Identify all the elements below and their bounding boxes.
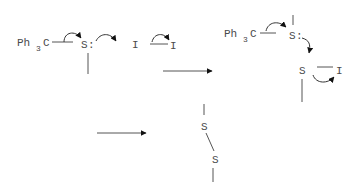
sulfur-label: S — [81, 39, 88, 51]
iodine-label: I — [336, 65, 343, 77]
intermediate-sulfonium: Ph 3 C S : S I — [224, 15, 343, 102]
sulfur-bottom-label: S — [212, 154, 219, 166]
sulfur-bottom-label: S — [299, 65, 306, 77]
lone-pair: : — [296, 30, 303, 42]
curly-arrow-icon — [266, 23, 286, 31]
ph-label: Ph — [224, 28, 237, 40]
carbon-label: C — [43, 37, 50, 49]
curly-arrow-icon — [152, 35, 169, 42]
sulfur-top-label: S — [289, 30, 296, 42]
reaction-mechanism-diagram: Ph 3 C S : I I Ph 3 C S : S I — [0, 0, 361, 196]
iodine-left-label: I — [132, 39, 139, 51]
iodine-right-label: I — [170, 40, 177, 52]
reactant-trityl-thiol: Ph 3 C S : — [17, 33, 116, 74]
sulfur-top-label: S — [201, 121, 208, 133]
product-disulfide: S S — [201, 104, 219, 182]
curly-arrow-icon — [96, 35, 116, 41]
s-s-bond — [206, 133, 214, 151]
carbon-label: C — [250, 28, 257, 40]
curly-arrow-icon — [313, 75, 334, 82]
subscript-3: 3 — [243, 35, 248, 44]
curly-arrow-icon — [302, 38, 310, 53]
curly-arrow-icon — [64, 33, 81, 42]
subscript-3: 3 — [36, 44, 41, 53]
reactant-iodine: I I — [132, 35, 177, 52]
lone-pair: : — [88, 39, 95, 51]
ph-label: Ph — [17, 37, 30, 49]
